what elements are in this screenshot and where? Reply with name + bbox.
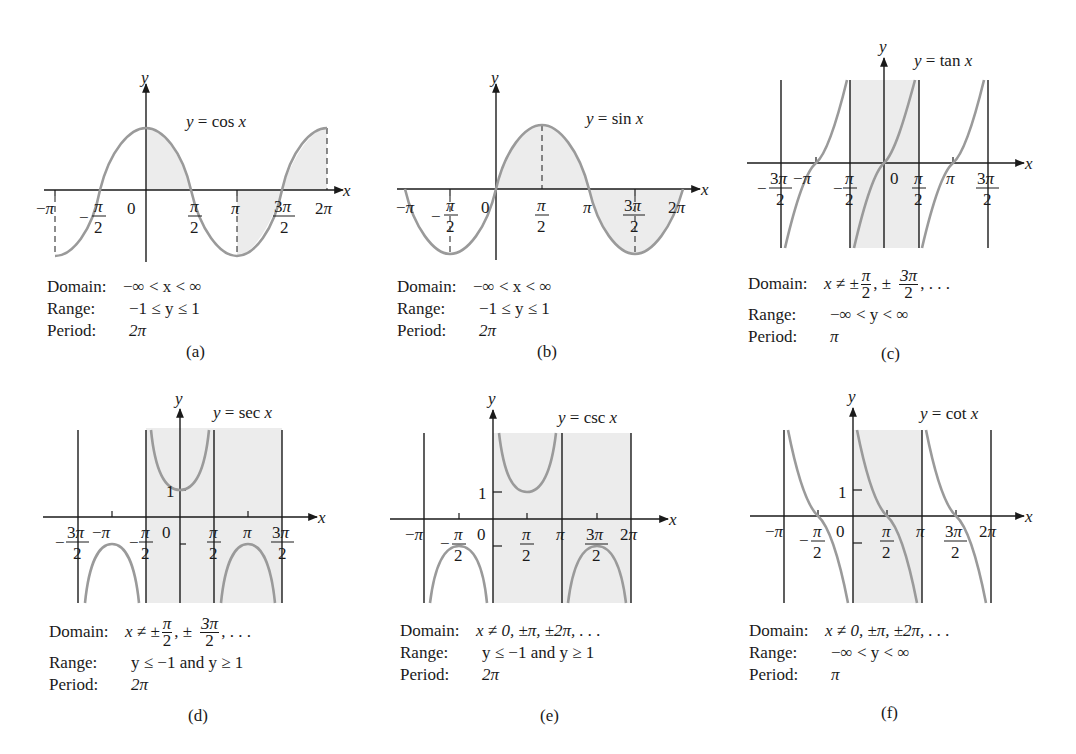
svg-text:π: π <box>94 197 103 216</box>
svg-text:π: π <box>916 522 925 541</box>
svg-text:−π: −π <box>92 523 111 542</box>
svg-text:−π: −π <box>405 525 424 544</box>
svg-text:π: π <box>446 196 455 215</box>
svg-text:−: − <box>440 534 450 553</box>
panel-d-sec-graph: x y y = sec x 1 − 3π2 −π − π2 0 π2 π 3π2 <box>43 389 326 603</box>
svg-text:0: 0 <box>127 199 136 218</box>
svg-text:2: 2 <box>141 544 150 563</box>
domain-label: Domain: <box>400 620 476 642</box>
domain-prefix: x ≠ ± <box>125 621 160 643</box>
svg-text:−: − <box>129 533 139 552</box>
period-value: 2π <box>479 320 496 342</box>
svg-text:y: y <box>877 37 887 56</box>
panel-d-caption: (d) <box>188 706 208 726</box>
svg-text:3π: 3π <box>67 523 85 542</box>
svg-text:2π: 2π <box>979 522 997 541</box>
range-label: Range: <box>400 642 482 664</box>
range-value: y ≤ −1 and y ≥ 1 <box>131 652 243 674</box>
period-label: Period: <box>749 664 831 686</box>
svg-text:2: 2 <box>776 190 785 209</box>
range-value: y ≤ −1 and y ≥ 1 <box>482 642 594 664</box>
svg-text:1: 1 <box>838 483 847 502</box>
svg-text:π: π <box>522 525 531 544</box>
range-label: Range: <box>397 298 479 320</box>
svg-text:2: 2 <box>630 217 639 236</box>
svg-text:0: 0 <box>836 522 845 541</box>
svg-text:3π: 3π <box>274 197 292 216</box>
domain-fraction: 3π2 <box>899 268 918 301</box>
svg-text:−: − <box>757 179 767 198</box>
svg-text:2: 2 <box>882 543 891 562</box>
svg-text:2: 2 <box>190 218 199 237</box>
svg-text:x: x <box>1024 154 1033 173</box>
panel-f-caption: (f) <box>881 703 898 723</box>
svg-text:0: 0 <box>477 525 486 544</box>
domain-fraction: π2 <box>162 616 173 649</box>
svg-text:2π: 2π <box>620 525 638 544</box>
panel-b-caption: (b) <box>537 342 557 362</box>
domain-label: Domain: <box>397 276 473 298</box>
panel-a-caption: (a) <box>186 342 205 362</box>
svg-text:2π: 2π <box>668 198 686 217</box>
domain-label: Domain: <box>748 273 824 295</box>
period-label: Period: <box>400 664 482 686</box>
svg-text:2: 2 <box>454 546 463 565</box>
svg-text:2: 2 <box>94 218 103 237</box>
range-value: −1 ≤ y ≤ 1 <box>479 298 550 320</box>
svg-text:x: x <box>700 180 709 199</box>
domain-prefix: x ≠ ± <box>824 273 859 295</box>
panel-a-cos-graph: x y y = cos x −π − π2 0 π2 π 3π2 2π <box>36 68 351 262</box>
svg-text:3π: 3π <box>624 196 642 215</box>
svg-text:y: y <box>489 68 499 87</box>
panel-a-properties: Domain:−∞ < x < ∞ Range:−1 ≤ y ≤ 1 Perio… <box>47 276 202 342</box>
svg-text:3π: 3π <box>586 525 604 544</box>
svg-text:x: x <box>1024 507 1033 526</box>
svg-text:y = sec x: y = sec x <box>211 403 273 422</box>
svg-text:π: π <box>914 169 923 188</box>
svg-text:2: 2 <box>522 546 531 565</box>
domain-label: Domain: <box>749 620 825 642</box>
svg-text:2: 2 <box>845 190 854 209</box>
svg-text:2: 2 <box>209 544 218 563</box>
svg-text:−π: −π <box>36 199 55 218</box>
svg-text:y = csc x: y = csc x <box>556 408 618 427</box>
svg-text:0: 0 <box>162 523 171 542</box>
svg-text:y: y <box>139 68 149 87</box>
range-label: Range: <box>748 304 830 326</box>
svg-text:π: π <box>556 525 565 544</box>
panel-f-properties: Domain:x ≠ 0, ±π, ±2π, . . . Range:−∞ < … <box>749 620 950 686</box>
svg-text:2: 2 <box>983 190 992 209</box>
period-label: Period: <box>47 320 129 342</box>
svg-text:2: 2 <box>278 544 287 563</box>
svg-text:3π: 3π <box>977 169 995 188</box>
svg-text:π: π <box>882 522 891 541</box>
svg-text:y: y <box>173 389 183 408</box>
svg-text:π: π <box>946 169 955 188</box>
period-label: Period: <box>397 320 479 342</box>
svg-text:0: 0 <box>890 169 899 188</box>
domain-value: x ≠ 0, ±π, ±2π, . . . <box>825 620 950 642</box>
svg-text:y: y <box>486 389 496 408</box>
svg-text:2: 2 <box>446 217 455 236</box>
svg-text:2π: 2π <box>315 199 333 218</box>
svg-text:2: 2 <box>73 544 82 563</box>
domain-value: x ≠ 0, ±π, ±2π, . . . <box>476 620 601 642</box>
svg-text:−: − <box>79 208 89 227</box>
period-value: 2π <box>129 320 146 342</box>
domain-value: −∞ < x < ∞ <box>123 276 202 298</box>
svg-text:1: 1 <box>478 484 487 503</box>
period-value: π <box>830 326 839 348</box>
svg-text:3π: 3π <box>770 169 788 188</box>
svg-text:2: 2 <box>537 217 546 236</box>
svg-text:3π: 3π <box>945 522 963 541</box>
panel-e-caption: (e) <box>540 706 559 726</box>
range-value: −1 ≤ y ≤ 1 <box>129 298 200 320</box>
svg-text:y = tan x: y = tan x <box>912 51 973 70</box>
panel-c-tan-graph: x y y = tan x − 3π2 −π − π2 0 π2 π 3π2 <box>747 37 1033 248</box>
period-value: 2π <box>131 674 148 696</box>
range-value: −∞ < y < ∞ <box>831 642 910 664</box>
svg-text:π: π <box>845 169 854 188</box>
svg-text:1: 1 <box>166 482 175 501</box>
domain-label: Domain: <box>49 621 125 643</box>
svg-text:π: π <box>813 522 822 541</box>
